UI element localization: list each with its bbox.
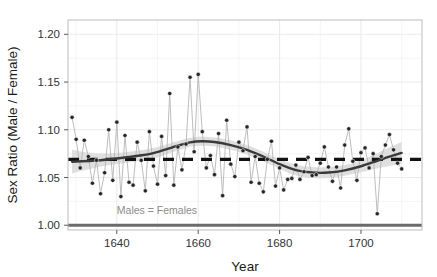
data-point	[306, 155, 310, 159]
x-tick-label: 1700	[348, 237, 374, 249]
data-point	[229, 162, 233, 166]
data-point	[143, 189, 147, 193]
data-point	[237, 140, 241, 144]
data-point	[371, 152, 375, 156]
y-tick-label: 1.05	[38, 172, 60, 184]
data-point	[192, 150, 196, 154]
data-point	[241, 149, 245, 153]
data-point	[139, 158, 143, 162]
data-point	[253, 154, 257, 158]
x-axis-title: Year	[231, 259, 259, 274]
data-point	[225, 118, 229, 122]
data-point	[111, 178, 115, 182]
data-point	[172, 183, 176, 187]
data-point	[355, 178, 359, 182]
data-point	[363, 146, 367, 150]
data-point	[334, 165, 338, 169]
data-point	[204, 166, 208, 170]
data-point	[184, 142, 188, 146]
data-point	[379, 154, 383, 158]
data-point	[221, 194, 225, 198]
y-axis-title: Sex Ratio (Male / Female)	[5, 47, 20, 204]
data-point	[131, 183, 135, 187]
data-point	[159, 134, 163, 138]
data-point	[286, 177, 290, 181]
data-point	[123, 133, 127, 137]
data-point	[347, 127, 351, 131]
data-point	[322, 145, 326, 149]
y-axis: 1.001.051.101.151.20	[38, 28, 68, 231]
data-point	[298, 177, 302, 181]
x-tick-label: 1680	[267, 237, 293, 249]
y-tick-label: 1.10	[38, 124, 60, 136]
data-point	[261, 190, 265, 194]
data-point	[78, 166, 82, 170]
data-point	[387, 132, 391, 136]
data-point	[351, 159, 355, 163]
data-point	[70, 115, 74, 119]
y-tick-label: 1.15	[38, 76, 60, 88]
data-point	[395, 161, 399, 165]
x-tick-label: 1660	[185, 237, 211, 249]
data-point	[375, 212, 379, 216]
data-point	[147, 130, 151, 134]
data-point	[115, 120, 119, 124]
data-point	[82, 138, 86, 142]
data-point	[343, 143, 347, 147]
equality-annotation-label: Males = Females	[117, 204, 197, 216]
chart-canvas: Males = Females 1640166016801700 1.001.0…	[0, 0, 437, 277]
data-point	[212, 173, 216, 177]
data-point	[233, 174, 237, 178]
data-point	[339, 186, 343, 190]
data-point	[330, 179, 334, 183]
data-point	[273, 184, 277, 188]
sex-ratio-chart: Males = Females 1640166016801700 1.001.0…	[0, 0, 437, 277]
data-point	[180, 168, 184, 172]
data-point	[86, 154, 90, 158]
data-point	[164, 173, 168, 177]
y-tick-label: 1.20	[38, 28, 60, 40]
data-point	[94, 158, 98, 162]
data-point	[196, 72, 200, 76]
data-point	[208, 153, 212, 157]
x-tick-label: 1640	[104, 237, 130, 249]
data-point	[282, 188, 286, 192]
data-point	[188, 75, 192, 79]
data-point	[249, 180, 253, 184]
data-point	[269, 139, 273, 143]
data-point	[314, 173, 318, 177]
data-point	[98, 192, 102, 196]
x-axis: 1640166016801700	[104, 230, 374, 249]
y-tick-label: 1.00	[38, 219, 60, 231]
data-point	[277, 166, 281, 170]
data-point	[326, 165, 330, 169]
data-point	[257, 181, 261, 185]
data-point	[107, 128, 111, 132]
data-point	[119, 194, 123, 198]
data-point	[391, 148, 395, 152]
data-point	[151, 164, 155, 168]
data-point	[155, 182, 159, 186]
data-point	[383, 143, 387, 147]
data-point	[310, 173, 314, 177]
data-point	[294, 163, 298, 167]
data-point	[176, 145, 180, 149]
data-point	[74, 137, 78, 141]
data-point	[265, 157, 269, 161]
data-point	[200, 130, 204, 134]
data-point	[318, 161, 322, 165]
data-point	[168, 91, 172, 95]
data-point	[367, 166, 371, 170]
data-point	[290, 176, 294, 180]
data-point	[103, 171, 107, 175]
data-point	[359, 151, 363, 155]
data-point	[302, 170, 306, 174]
data-point	[127, 180, 131, 184]
data-point	[90, 181, 94, 185]
data-point	[216, 131, 220, 135]
data-point	[135, 140, 139, 144]
data-point	[400, 167, 404, 171]
data-point	[245, 125, 249, 129]
